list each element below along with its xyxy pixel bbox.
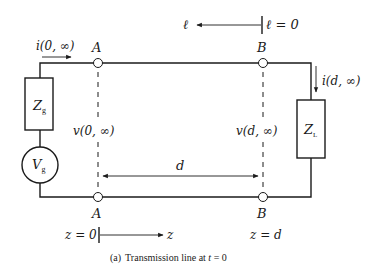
node-b-bottom — [259, 193, 268, 202]
vg-label: Vg — [32, 157, 45, 174]
voltage-label-a: v(0, ∞) — [73, 124, 115, 138]
z-direction-label: z — [166, 228, 174, 242]
voltage-source-vg: Vg — [22, 147, 58, 183]
ell-direction-label: ℓ — [183, 17, 189, 32]
zl-label: ZL — [303, 122, 317, 139]
transmission-line-diagram: Zg Vg ZL A B A B v(0, ∞) v(d, ∞) i(0, ∞)… — [0, 0, 381, 271]
length-d-label: d — [176, 158, 184, 173]
node-a-bottom-label: A — [91, 206, 101, 221]
node-a-top-label: A — [91, 40, 101, 55]
node-b-top-label: B — [256, 40, 267, 55]
node-b-bottom-label: B — [256, 206, 267, 221]
load-impedance-zl: ZL — [297, 100, 325, 158]
figure-caption: (a)Transmission line at t = 0 — [110, 252, 227, 264]
ell-origin-label: ℓ = 0 — [266, 17, 299, 32]
input-current-label: i(0, ∞) — [36, 39, 75, 53]
zg-label: Zg — [32, 98, 46, 115]
source-impedance-zg: Zg — [25, 78, 53, 147]
node-a-top — [94, 59, 103, 68]
z-origin-label: z = 0 — [64, 228, 97, 242]
load-current-label: i(d, ∞) — [322, 74, 361, 88]
z-end-label: z = d — [249, 228, 282, 242]
node-b-top — [259, 59, 268, 68]
voltage-label-b: v(d, ∞) — [236, 124, 278, 138]
top-conductor — [40, 63, 311, 100]
node-a-bottom — [94, 193, 103, 202]
